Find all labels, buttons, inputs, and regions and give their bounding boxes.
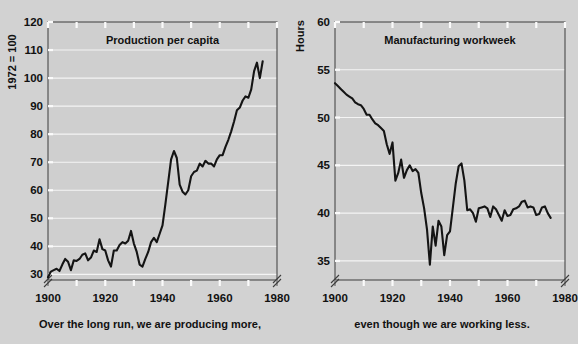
- y-axis-title: 1972 = 100: [6, 34, 18, 89]
- y-tick-label: 60: [317, 16, 330, 28]
- y-tick-label: 60: [30, 184, 43, 196]
- y-tick-label: 40: [317, 207, 330, 219]
- caption-left: Over the long run, we are producing more…: [39, 318, 261, 330]
- x-tick-label: 1940: [437, 292, 463, 304]
- y-tick-label: 90: [30, 100, 43, 112]
- y-tick-label: 35: [317, 255, 330, 267]
- x-tick-label: 1960: [207, 292, 233, 304]
- y-tick-label: 100: [24, 72, 43, 84]
- x-tick-label: 1940: [150, 292, 176, 304]
- y-tick-label: 110: [24, 44, 43, 56]
- plot-title: Manufacturing workweek: [384, 34, 516, 46]
- x-tick-label: 1920: [380, 292, 406, 304]
- y-tick-label: 55: [317, 64, 330, 76]
- chart-figure: 1900192019401960198030405060708090100110…: [0, 0, 578, 344]
- y-tick-label: 80: [30, 128, 43, 140]
- plot-title: Production per capita: [106, 34, 220, 46]
- x-tick-label: 1900: [35, 292, 61, 304]
- plot-background: [335, 22, 565, 280]
- y-tick-label: 30: [30, 268, 43, 280]
- plot-background: [48, 22, 277, 280]
- manufacturing-workweek-chart: 19001920194019601980354045505560Manufact…: [290, 0, 578, 344]
- x-tick-label: 1980: [552, 292, 578, 304]
- y-tick-label: 50: [317, 112, 330, 124]
- x-tick-label: 1900: [322, 292, 348, 304]
- x-tick-label: 1960: [495, 292, 521, 304]
- chart-panel-production: 1900192019401960198030405060708090100110…: [0, 0, 290, 344]
- y-tick-label: 45: [317, 159, 330, 171]
- x-tick-label: 1920: [92, 292, 118, 304]
- y-tick-label: 70: [30, 156, 43, 168]
- x-tick-label: 1980: [264, 292, 290, 304]
- y-tick-label: 120: [24, 16, 43, 28]
- y-tick-label: 40: [30, 240, 43, 252]
- chart-panel-workweek: 19001920194019601980354045505560Manufact…: [290, 0, 578, 344]
- production-per-capita-chart: 1900192019401960198030405060708090100110…: [0, 0, 290, 344]
- y-axis-title: Hours: [294, 20, 306, 52]
- caption-right: even though we are working less.: [354, 318, 529, 330]
- y-tick-label: 50: [30, 212, 43, 224]
